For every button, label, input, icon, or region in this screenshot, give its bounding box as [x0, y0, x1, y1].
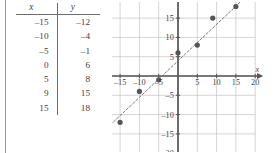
- y-tick-label: 10: [166, 33, 174, 42]
- cell-x: 15: [16, 101, 57, 115]
- y-tick-label: –15: [161, 130, 174, 139]
- table-header: x y: [16, 3, 100, 15]
- y-tick-label: 20: [166, 2, 174, 4]
- cell-x: –10: [16, 30, 57, 44]
- cell-y: 8: [57, 73, 100, 87]
- cell-y: –1: [57, 44, 100, 58]
- table-body: –15 –12 –10 –4 –5 –1 0 6 5 8: [16, 15, 100, 116]
- xy-table-container: x y –15 –12 –10 –4 –5 –1 0: [16, 3, 100, 115]
- column-header-y: y: [57, 3, 100, 15]
- table-row: 0 6: [16, 58, 100, 72]
- table-row: 15 18: [16, 101, 100, 115]
- x-axis-label: x: [254, 65, 259, 74]
- x-tick-label: –5: [154, 78, 163, 87]
- cell-x: 0: [16, 58, 57, 72]
- cell-y: 18: [57, 101, 100, 115]
- scatter-plot-container: –20–15–10–551015202015105–5–10–15–20 xy: [112, 2, 274, 152]
- x-tick-label: 20: [251, 78, 259, 87]
- figure-root: x y –15 –12 –10 –4 –5 –1 0: [0, 0, 276, 153]
- cell-x: –5: [16, 44, 57, 58]
- table-row: –15 –12: [16, 15, 100, 30]
- column-header-x: x: [16, 3, 57, 15]
- cell-y: 15: [57, 87, 100, 101]
- x-tick-label: –15: [113, 78, 126, 87]
- x-tick-label: 15: [232, 78, 240, 87]
- table-row: –10 –4: [16, 30, 100, 44]
- data-point: [175, 50, 180, 55]
- data-point: [137, 89, 142, 94]
- xy-table: x y –15 –12 –10 –4 –5 –1 0: [16, 3, 100, 115]
- table-row: 5 8: [16, 73, 100, 87]
- table-row: –5 –1: [16, 44, 100, 58]
- y-tick-label: 5: [170, 53, 174, 62]
- y-tick-label: 15: [166, 14, 174, 23]
- cell-y: –12: [57, 15, 100, 30]
- data-point: [118, 120, 123, 125]
- cell-y: 6: [57, 58, 100, 72]
- table-row: 9 15: [16, 87, 100, 101]
- tick-labels: –20–15–10–551015202015105–5–10–15–20: [112, 2, 259, 152]
- x-tick-label: 10: [213, 78, 221, 87]
- axes: [112, 2, 261, 152]
- y-tick-label: –10: [161, 111, 174, 120]
- tick-marks: [112, 2, 255, 152]
- y-tick-label: –20: [161, 149, 174, 152]
- cell-x: –15: [16, 15, 57, 30]
- cell-x: 9: [16, 87, 57, 101]
- x-tick-label: –10: [132, 78, 145, 87]
- y-tick-label: –5: [165, 91, 174, 100]
- grid-lines: [112, 2, 255, 152]
- scatter-plot-svg: –20–15–10–551015202015105–5–10–15–20 xy: [112, 2, 274, 152]
- axis-labels: xy: [181, 2, 259, 74]
- cell-y: –4: [57, 30, 100, 44]
- data-point: [210, 16, 215, 21]
- data-point: [233, 4, 238, 9]
- margin-rule: [5, 0, 6, 153]
- cell-x: 5: [16, 73, 57, 87]
- x-tick-label: 5: [195, 78, 199, 87]
- table-header-row: x y: [16, 3, 100, 15]
- data-point: [195, 43, 200, 48]
